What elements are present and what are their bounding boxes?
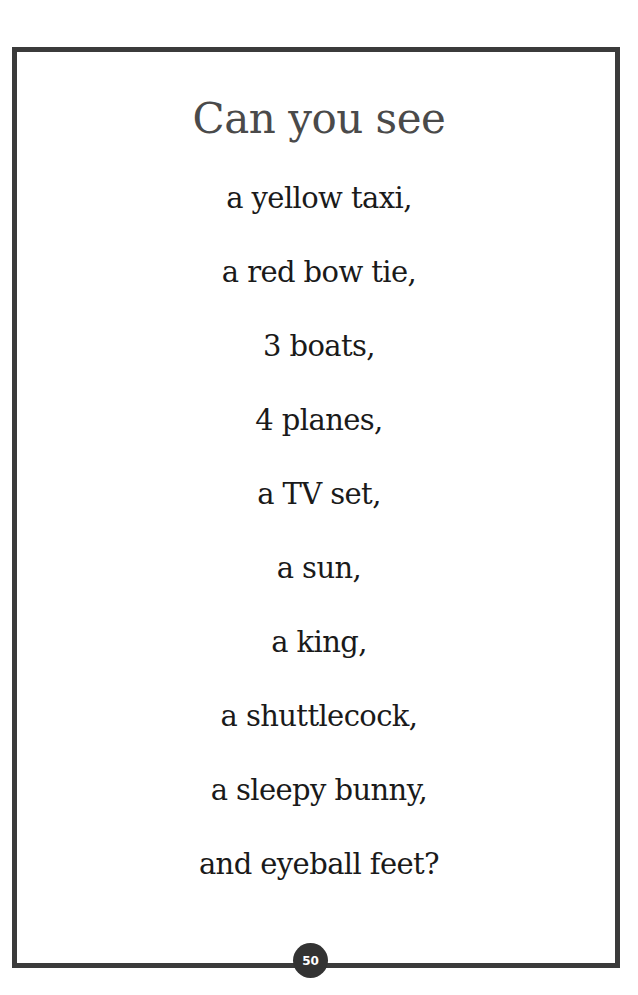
list-item: 4 planes, bbox=[0, 402, 638, 438]
list-item: 3 boats, bbox=[0, 328, 638, 364]
page-number-badge: 50 bbox=[293, 943, 328, 978]
list-item: a sun, bbox=[0, 550, 638, 586]
list-item: a king, bbox=[0, 624, 638, 660]
page-title: Can you see bbox=[0, 94, 638, 143]
list-item: a red bow tie, bbox=[0, 254, 638, 290]
list-item: a yellow taxi, bbox=[0, 180, 638, 216]
list-item: a sleepy bunny, bbox=[0, 772, 638, 808]
list-item: a shuttlecock, bbox=[0, 698, 638, 734]
list-item: and eyeball feet? bbox=[0, 846, 638, 882]
list-item: a TV set, bbox=[0, 476, 638, 512]
